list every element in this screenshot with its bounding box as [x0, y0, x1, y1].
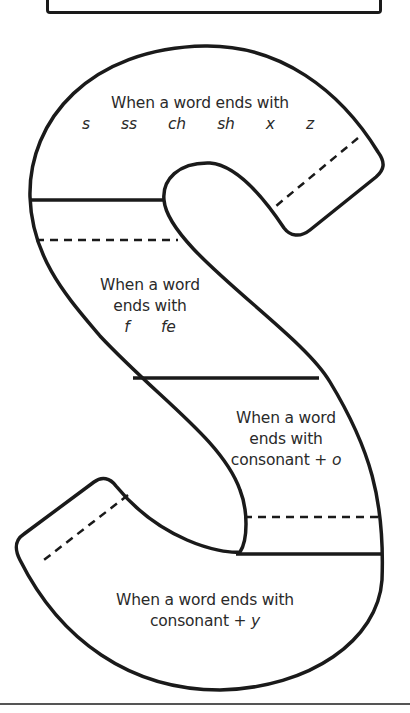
section-2-label: When a word ends with f fe [80, 275, 220, 338]
section-2-line2: ends with [80, 296, 220, 317]
ending-sh: sh [217, 114, 235, 135]
section-1-line1: When a word ends with [80, 93, 320, 114]
ending-z: z [306, 114, 314, 135]
section-4-prefix: consonant + [150, 612, 246, 630]
section-3-line3: consonant + o [222, 450, 350, 471]
ending-o: o [332, 451, 341, 469]
ending-y: y [251, 612, 260, 630]
section-4-line2: consonant + y [90, 611, 320, 632]
section-3-line2: ends with [222, 429, 350, 450]
ending-f: f [124, 318, 129, 336]
ending-x: x [266, 114, 275, 135]
section-3-prefix: consonant + [231, 451, 327, 469]
ending-s: s [82, 114, 90, 135]
section-2-endings: f fe [80, 317, 220, 338]
ending-ch: ch [168, 114, 186, 135]
section-3-line1: When a word [222, 408, 350, 429]
section-1-label: When a word ends with s ss ch sh x z [80, 93, 320, 135]
ending-ss: ss [121, 114, 137, 135]
section-2-line1: When a word [80, 275, 220, 296]
section-4-label: When a word ends with consonant + y [90, 590, 320, 632]
page-bottom-rule [0, 703, 410, 705]
section-1-endings: s ss ch sh x z [80, 114, 320, 135]
section-3-label: When a word ends with consonant + o [222, 408, 350, 471]
ending-fe: fe [161, 318, 176, 336]
section-4-line1: When a word ends with [90, 590, 320, 611]
